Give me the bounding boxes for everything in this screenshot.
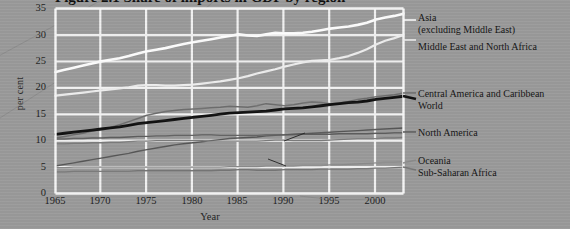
figure-title-text: Figure 2.1 Share of imports in GDP by re… bbox=[55, 0, 345, 6]
figure-title-clipped: Figure 2.1 Share of imports in GDP by re… bbox=[0, 0, 570, 8]
line-chart bbox=[0, 0, 570, 229]
legend-connector-ticks bbox=[403, 20, 416, 170]
